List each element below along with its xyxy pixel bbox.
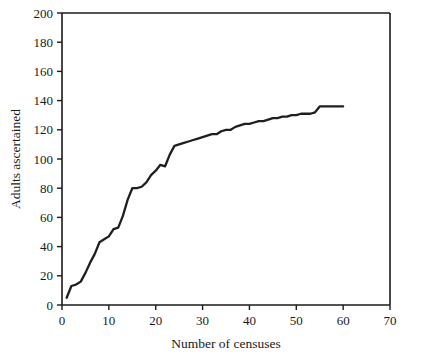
y-tick-label: 120 (34, 122, 54, 137)
y-tick-label: 60 (40, 210, 53, 225)
x-tick-label: 70 (384, 313, 397, 328)
x-axis-title: Number of censuses (171, 336, 280, 351)
y-tick-label: 160 (34, 64, 54, 79)
chart-svg: 020406080100120140160180200 010203040506… (0, 0, 426, 359)
y-tick-label: 80 (40, 181, 53, 196)
y-tick-label: 100 (34, 152, 54, 167)
x-tick-label: 10 (102, 313, 115, 328)
x-tick-label: 40 (243, 313, 256, 328)
y-tick-label: 40 (40, 239, 53, 254)
x-tick-label: 30 (196, 313, 209, 328)
y-tick-label: 0 (47, 298, 54, 313)
x-tick-label: 0 (59, 313, 66, 328)
x-tick-label: 20 (149, 313, 162, 328)
y-axis-title: Adults ascertained (8, 109, 23, 209)
y-tick-label: 180 (34, 35, 54, 50)
y-tick-label: 140 (34, 93, 54, 108)
y-tick-label: 20 (40, 268, 53, 283)
x-tick-label: 50 (290, 313, 303, 328)
x-tick-label: 60 (337, 313, 350, 328)
y-tick-label: 200 (34, 6, 54, 21)
chart-figure: 020406080100120140160180200 010203040506… (0, 0, 426, 359)
